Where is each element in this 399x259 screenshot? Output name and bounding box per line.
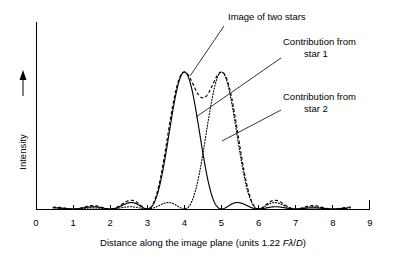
x-axis-tick-label-3: 3 xyxy=(145,217,150,228)
x-axis-tick-label-2: 2 xyxy=(108,217,113,228)
leader-line-contribution-star-1 xyxy=(196,58,281,117)
x-axis-tick-label-5: 5 xyxy=(219,217,224,228)
y-axis-arrow-icon xyxy=(20,70,27,96)
x-axis-tick-label-4: 4 xyxy=(182,217,187,228)
y-axis-label: Intensity xyxy=(17,134,28,170)
annotation-contribution-star-2-line1: Contribution from xyxy=(283,91,356,102)
annotation-contribution-star-1-line1: Contribution from xyxy=(283,36,356,47)
leader-line-image-of-two-stars xyxy=(190,26,224,76)
x-axis-label: Distance along the image plane (units 1.… xyxy=(100,237,306,248)
annotation-contribution-star-2-line2: star 2 xyxy=(304,103,328,114)
x-axis-tick-label-6: 6 xyxy=(256,217,261,228)
x-axis-tick-labels: 0123456789 xyxy=(33,217,372,228)
x-axis-label-prefix: Distance along the image plane (units 1.… xyxy=(100,237,283,248)
x-axis-tick-label-0: 0 xyxy=(33,217,38,228)
annotation-image-of-two-stars: Image of two stars xyxy=(228,11,306,22)
x-axis-tick-label-1: 1 xyxy=(70,217,75,228)
x-axis-label-suffix: ) xyxy=(303,237,306,248)
diffraction-figure: Intensity 0123456789 Image of two stars … xyxy=(0,0,399,259)
leader-line-contribution-star-2 xyxy=(222,110,281,141)
x-axis-tick-label-8: 8 xyxy=(330,217,335,228)
annotation-contribution-star-1-line2: star 1 xyxy=(304,48,328,59)
x-axis-tick-label-9: 9 xyxy=(367,217,372,228)
x-axis-tick-label-7: 7 xyxy=(293,217,298,228)
